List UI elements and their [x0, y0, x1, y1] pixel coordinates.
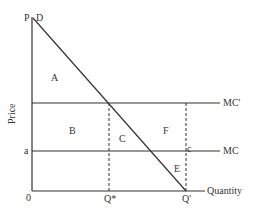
label-p: P [24, 13, 30, 23]
label-c-point: c [187, 144, 191, 154]
area-a: A [51, 73, 58, 83]
label-mc: MC [223, 146, 239, 156]
label-a-price: a [24, 146, 28, 156]
label-q-star: Q* [104, 194, 116, 204]
label-mc-prime: MC' [223, 98, 240, 108]
area-c: C [119, 134, 126, 144]
area-e: E [174, 164, 180, 174]
label-origin: 0 [26, 193, 31, 203]
area-f: F [163, 126, 169, 136]
x-axis-label: Quantity [207, 186, 242, 196]
label-d: D [36, 13, 43, 23]
area-b: B [69, 126, 76, 136]
y-axis-label: Price [6, 103, 17, 124]
label-q-prime: Q' [182, 194, 191, 204]
